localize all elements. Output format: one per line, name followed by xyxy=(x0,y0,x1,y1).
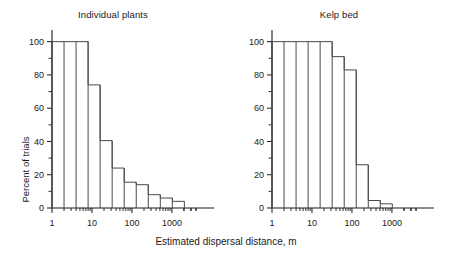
panel-individual-plants: Individual plants 0204060801001101001000 xyxy=(0,0,226,262)
left-x-tick-label: 100 xyxy=(124,218,139,228)
right-y-tick-label: 60 xyxy=(254,103,264,113)
plot-right: 0204060801001101001000 xyxy=(226,0,452,262)
right-y-tick-label: 100 xyxy=(249,37,264,47)
left-y-tick-label: 40 xyxy=(34,137,44,147)
left-x-tick-label: 10 xyxy=(87,218,97,228)
panel-kelp-bed: Kelp bed 0204060801001101001000 xyxy=(226,0,452,262)
left-y-tick-label: 20 xyxy=(34,170,44,180)
left-y-tick-label: 100 xyxy=(29,37,44,47)
left-histogram-outline xyxy=(52,42,184,208)
left-y-tick-label: 0 xyxy=(39,203,44,213)
right-x-tick-label: 1000 xyxy=(382,218,402,228)
right-x-tick-label: 10 xyxy=(307,218,317,228)
left-y-tick-label: 60 xyxy=(34,103,44,113)
left-y-tick-label: 80 xyxy=(34,70,44,80)
left-x-tick-label: 1 xyxy=(49,218,54,228)
x-axis-label: Estimated dispersal distance, m xyxy=(0,236,452,247)
right-y-tick-label: 0 xyxy=(259,203,264,213)
right-x-tick-label: 1 xyxy=(269,218,274,228)
left-x-tick-label: 1000 xyxy=(162,218,182,228)
right-y-tick-label: 40 xyxy=(254,137,264,147)
right-y-tick-label: 20 xyxy=(254,170,264,180)
y-axis-label: Percent of trials xyxy=(20,105,31,235)
right-y-tick-label: 80 xyxy=(254,70,264,80)
plot-left: 0204060801001101001000 xyxy=(0,0,226,262)
figure-container: Individual plants 0204060801001101001000… xyxy=(0,0,452,262)
y-axis-label-wrap: Percent of trials xyxy=(12,60,26,160)
right-x-tick-label: 100 xyxy=(344,218,359,228)
